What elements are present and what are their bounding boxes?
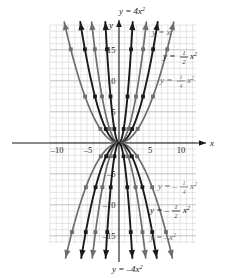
svg-text:y =: y = — [162, 51, 175, 61]
curve-label-neg-x-squared: y = –x2 — [149, 231, 176, 242]
label-r4-denominator: 4 — [183, 189, 186, 195]
label-r2-denominator: 2 — [183, 59, 186, 65]
y-axis-name: y — [108, 20, 113, 30]
label-r6-exponent: 2 — [173, 231, 176, 238]
svg-text:y =: y = — [159, 75, 172, 85]
curve-point-marker — [108, 127, 112, 131]
svg-text:y = x2: y = x2 — [151, 26, 174, 37]
curve-point-marker — [69, 47, 73, 51]
curve-point-marker — [129, 47, 133, 51]
curve-point-marker — [84, 185, 88, 189]
x-tick-label: –10 — [50, 145, 64, 155]
y-tick-label: –5 — [106, 169, 116, 179]
curve-point-marker — [113, 154, 117, 158]
curve-label-top: y = 4x2 — [118, 5, 145, 16]
parabola-family-graph: –10–551015105–5–10–15 x y y = 4x2 y = –4… — [0, 0, 232, 278]
curve-point-marker — [109, 185, 113, 189]
curve-point-marker — [136, 127, 140, 131]
label-r5-pre: y = – — [149, 205, 170, 215]
y-tick-label: –10 — [102, 200, 116, 210]
x-tick-label: 5 — [148, 145, 152, 155]
curve-point-marker — [134, 95, 138, 99]
svg-text:y = –: y = – — [149, 205, 170, 215]
label-r1-exponent: 2 — [171, 26, 174, 33]
curve-point-marker — [135, 154, 139, 158]
curve-point-marker — [126, 154, 130, 158]
curve-point-marker — [126, 127, 130, 131]
y-tick-label: –15 — [102, 231, 116, 241]
curve-point-marker — [109, 95, 113, 99]
curve-point-marker — [108, 154, 112, 158]
label-r2-exponent: 2 — [194, 50, 197, 57]
label-r5-numerator: 1 — [175, 204, 178, 210]
curve-point-marker — [130, 154, 134, 158]
curve-point-marker — [150, 185, 154, 189]
curve-point-marker — [84, 230, 88, 234]
curve-point-marker — [151, 95, 155, 99]
curve-point-marker — [98, 127, 102, 131]
curve-point-marker — [141, 95, 145, 99]
curve-point-marker — [141, 47, 145, 51]
label-r2-numerator: 1 — [183, 50, 186, 56]
curve-label-x-squared: y = x2 — [151, 26, 174, 37]
label-r3-denominator: 4 — [180, 83, 183, 89]
svg-text:y = 4x2: y = 4x2 — [118, 5, 145, 16]
y-tick-label: 5 — [111, 107, 115, 117]
label-bottom-exponent: 2 — [140, 263, 143, 270]
curve-point-marker — [129, 230, 133, 234]
curve-point-marker — [125, 185, 129, 189]
curve-point-marker — [94, 230, 98, 234]
label-bottom-text: y = –4x — [111, 264, 140, 274]
curve-point-marker — [99, 154, 103, 158]
x-tick-label: 10 — [177, 145, 186, 155]
label-r2-pre: y = — [162, 51, 175, 61]
y-tick-label: 15 — [107, 45, 116, 55]
curve-point-marker — [100, 95, 104, 99]
svg-text:y = –4x2: y = –4x2 — [111, 263, 143, 274]
label-r3-exponent: 2 — [191, 74, 194, 81]
curve-point-marker — [130, 127, 134, 131]
label-r3-numerator: 1 — [180, 74, 183, 80]
curve-point-marker — [122, 127, 126, 131]
label-top-text: y = 4x — [118, 6, 142, 16]
label-r3-pre: y = — [159, 75, 172, 85]
curve-point-marker — [141, 230, 145, 234]
x-tick-label: –5 — [83, 145, 93, 155]
curve-point-marker — [83, 95, 87, 99]
label-r4-exponent: 2 — [194, 180, 197, 187]
label-r6-pre: y = –x — [149, 232, 173, 242]
curve-point-marker — [70, 230, 74, 234]
curve-label-bottom: y = –4x2 — [111, 263, 143, 274]
svg-text:y = –: y = – — [157, 181, 178, 191]
curve-point-marker — [93, 95, 97, 99]
y-tick-label: 10 — [107, 76, 116, 86]
curve-point-marker — [122, 154, 126, 158]
curve-point-marker — [101, 185, 105, 189]
svg-text:y = –x2: y = –x2 — [149, 231, 176, 242]
label-r5-exponent: 2 — [187, 204, 190, 211]
curve-point-marker — [151, 47, 155, 51]
curve-point-marker — [134, 185, 138, 189]
curve-point-marker — [126, 95, 130, 99]
curve-point-marker — [112, 127, 116, 131]
curve-point-marker — [93, 47, 97, 51]
figure-canvas: –10–551015105–5–10–15 x y y = 4x2 y = –4… — [0, 0, 232, 278]
curve-point-marker — [104, 127, 108, 131]
curve-point-marker — [141, 185, 145, 189]
x-axis-name: x — [209, 138, 214, 148]
curve-point-marker — [104, 154, 108, 158]
curve-point-marker — [94, 185, 98, 189]
label-r5-denominator: 2 — [175, 213, 178, 219]
label-r4-pre: y = – — [157, 181, 178, 191]
label-top-exponent: 2 — [142, 5, 145, 12]
curve-point-marker — [83, 47, 87, 51]
label-r1-text: y = x — [151, 27, 171, 37]
label-r4-numerator: 1 — [183, 180, 186, 186]
